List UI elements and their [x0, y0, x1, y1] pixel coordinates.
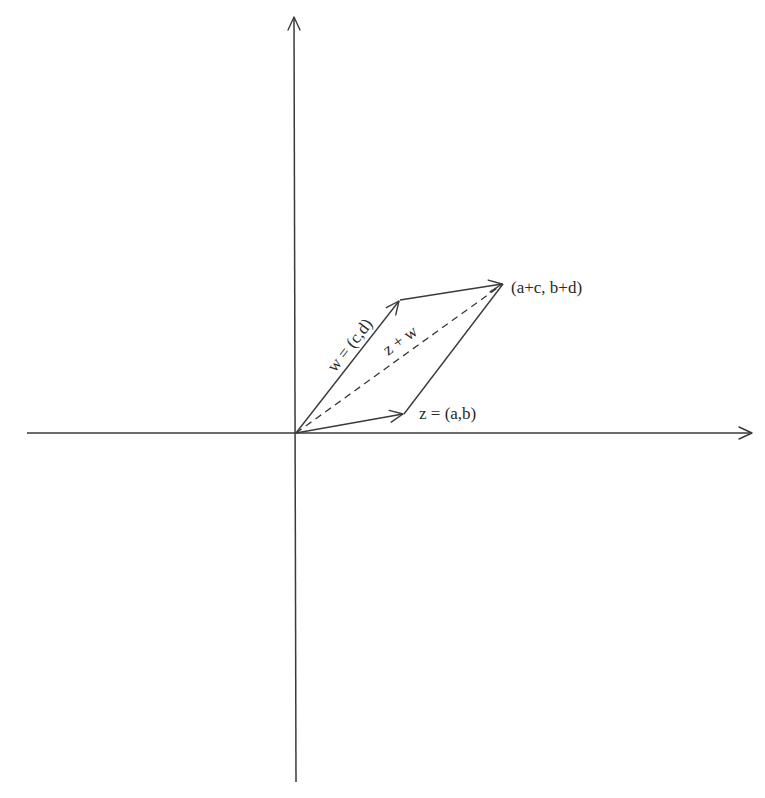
vector-z: [296, 414, 403, 433]
vector-addition-diagram: z = (a,b) (a+c, b+d) w = (c,d) z + w: [0, 0, 765, 798]
vector-w: [296, 301, 399, 433]
vector-z-translated: [400, 284, 502, 300]
vector-w-translated: [404, 284, 503, 414]
label-sum-point: (a+c, b+d): [511, 278, 582, 297]
label-z: z = (a,b): [419, 404, 476, 423]
label-w: w = (c,d): [323, 315, 376, 376]
label-sum-vector: z + w: [379, 321, 421, 359]
y-axis: [294, 17, 296, 782]
